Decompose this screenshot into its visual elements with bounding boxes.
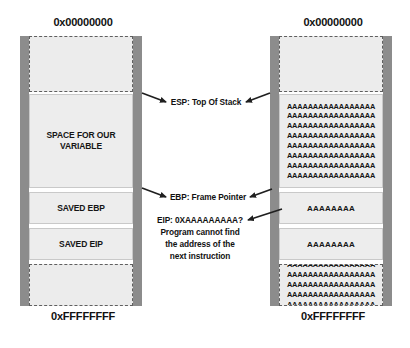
left-cell-empty-top [29, 36, 133, 92]
left-rail-east [133, 36, 142, 306]
right-rail-east [383, 36, 392, 306]
right-cell-overwritten-ebp-label: AAAAAAAA [307, 204, 355, 213]
right-cell-overflow-spill: AAAAAAAAAAAAAAAAA AAAAAAAAAAAAAAAAA AAAA… [279, 264, 383, 306]
left-cell-empty-bottom [29, 264, 133, 306]
right-cell-overwritten-eip-label: AAAAAAAA [307, 240, 355, 249]
right-cell-overflow-spill-label: AAAAAAAAAAAAAAAAA AAAAAAAAAAAAAAAAA AAAA… [280, 264, 382, 306]
arrow-esp-left [142, 93, 166, 102]
left-bottom-address: 0xFFFFFFFF [18, 310, 148, 322]
right-cell-overflowed-variable-space: AAAAAAAAAAAAAAAAA AAAAAAAAAAAAAAAAA AAAA… [279, 94, 383, 188]
annotation-esp: ESP: Top Of Stack [166, 96, 246, 108]
left-top-address: 0x00000000 [18, 16, 148, 28]
annotation-eip: EIP: 0XAAAAAAAAA? Program cannot find th… [152, 214, 248, 262]
left-cell-saved-eip: SAVED EIP [29, 228, 133, 260]
right-bottom-address: 0xFFFFFFFF [268, 310, 398, 322]
annotation-ebp: EBP: Frame Pointer [166, 191, 250, 203]
left-stack-column: SPACE FOR OUR VARIABLE SAVED EBP SAVED E… [20, 36, 142, 306]
left-cell-saved-ebp-label: SAVED EBP [57, 203, 105, 214]
right-cell-overwritten-eip: AAAAAAAA [279, 228, 383, 260]
left-cell-variable-space-label: SPACE FOR OUR VARIABLE [47, 130, 116, 151]
left-cell-saved-ebp: SAVED EBP [29, 192, 133, 224]
right-cell-overflowed-variable-space-label: AAAAAAAAAAAAAAAAA AAAAAAAAAAAAAAAAA AAAA… [280, 102, 382, 181]
left-rail-west [20, 36, 29, 306]
right-stack-column: AAAAAAAAAAAAAAAAA AAAAAAAAAAAAAAAAA AAAA… [270, 36, 392, 306]
diagram-canvas: 0x00000000 SPACE FOR OUR VARIABLE SAVED … [0, 0, 410, 348]
left-cell-variable-space: SPACE FOR OUR VARIABLE [29, 94, 133, 188]
right-top-address: 0x00000000 [268, 16, 398, 28]
arrow-ebp-right [250, 189, 272, 197]
left-cell-saved-eip-label: SAVED EIP [59, 239, 103, 250]
right-rail-west [270, 36, 279, 306]
arrow-ebp-left [142, 188, 166, 197]
right-cell-overwritten-ebp: AAAAAAAA [279, 192, 383, 224]
right-cell-empty-top [279, 36, 383, 92]
arrow-esp-right [246, 93, 270, 102]
